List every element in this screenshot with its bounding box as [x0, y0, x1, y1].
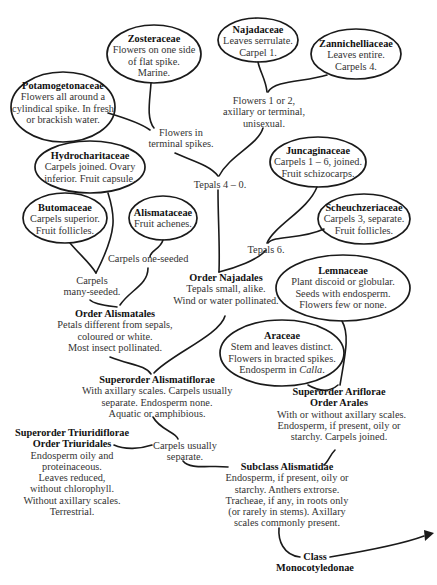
node-flowers-terminal: Flowers in terminal spikes.	[142, 127, 220, 150]
node-juncaginaceae: Juncaginaceae Carpels 1 – 6, joined. Fru…	[270, 145, 366, 179]
node-alismataceae: Alismataceae Fruit achenes.	[129, 207, 197, 230]
node-superorder-alismatiflorae: Superorder Alismatiflorae With axillary …	[82, 374, 232, 419]
araceae-endosperm-line: Endosperm in Calla.	[225, 364, 339, 375]
node-tepals-4-0: Tepals 4 – 0.	[188, 179, 252, 190]
node-class-monocotyledonae: Class Monocotyledonae	[270, 551, 360, 574]
node-zannichelliaceae: Zannichelliaceae Leaves entire. Carpels …	[311, 38, 401, 72]
node-superorder-ariflorae: Superorder Ariflorae Order Arales With o…	[277, 386, 401, 442]
edge-tepals40	[218, 190, 219, 272]
edge-zosteraceae	[149, 83, 154, 128]
node-araceae: Araceae Stem and leaves distinct. Flower…	[225, 330, 339, 375]
node-lemnaceae: Lemnaceae Plant discoid or globular. See…	[283, 265, 403, 310]
node-zosteraceae: Zosteraceae Flowers on one side of flat …	[107, 33, 201, 78]
edge-alismatiflorae	[153, 417, 178, 439]
node-najadaceae: Najadaceae Leaves serrulate. Carpel 1.	[218, 24, 298, 58]
node-carpels-many-seeded: Carpels many-seeded.	[60, 275, 124, 298]
node-potamogetonaceae: Potamogetonaceae Flowers all around a cy…	[11, 80, 115, 125]
node-subclass-alismatidae: Subclass Alismatidae Endosperm, if prese…	[222, 461, 352, 529]
node-order-najadales: Order Najadales Tepals small, alike. Win…	[170, 272, 282, 306]
node-hydrocharitaceae: Hydrocharitaceae Carpels joined. Ovary i…	[35, 150, 145, 184]
node-order-alismatales: Order Alismatales Petals different from …	[55, 308, 175, 353]
node-scheuchzeriaceae: Scheuchzeriaceae Carpels 3, separate. Fr…	[318, 202, 410, 236]
edge-alismatales	[110, 357, 151, 374]
node-carpels-one-seeded: Carpels one-seeded	[108, 253, 188, 264]
edge-manyseeded	[90, 300, 117, 307]
edge-flowers12	[219, 128, 263, 176]
edge-flowersterminal	[175, 153, 218, 176]
node-carpels-usually-separate: Carpels usually separate.	[150, 440, 220, 463]
arrowhead-icon	[424, 530, 434, 541]
node-tepals-6: Tepals 6.	[240, 244, 292, 255]
node-flowers-1-or-2: Flowers 1 or 2, axillary or terminal, un…	[214, 95, 314, 129]
edge-zannichelliaceae	[268, 75, 327, 92]
edge-butomaceae	[70, 243, 96, 273]
node-superorder-triuridiflorae: Superorder Triuridiflorae Order Triurida…	[14, 427, 130, 517]
node-butomaceae: Butomaceae Carpels superior. Fruit folli…	[23, 202, 107, 236]
edge-oneseeded	[120, 268, 148, 305]
edge-najadaceae	[258, 62, 267, 92]
phylogeny-diagram: Zosteraceae Flowers on one side of flat …	[0, 0, 437, 585]
edge-juncaginaceae	[267, 187, 317, 243]
